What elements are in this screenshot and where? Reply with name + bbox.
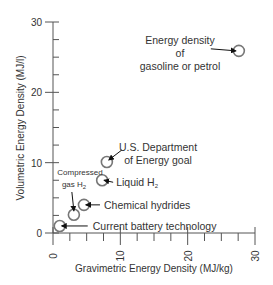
annotation-arrow [104, 180, 113, 182]
label-gasoline-2: of [176, 47, 185, 59]
label-doe-1: U.S. Department [119, 141, 197, 153]
label-compressed-gas: gas H2 [62, 180, 87, 190]
label-liquid-h2: Liquid H2 [116, 176, 159, 189]
label-chemical-hydrides: Chemical hydrides [104, 199, 190, 211]
y-tick-label: 10 [31, 158, 43, 169]
annotation-arrow [211, 49, 236, 51]
x-tick-label: 20 [183, 250, 194, 262]
annotation-arrow [72, 192, 74, 211]
label-doe-2: of Energy goal [124, 154, 192, 166]
x-tick-label: 30 [250, 250, 261, 262]
label-battery: Current battery technology [93, 220, 217, 232]
label-gasoline-3: gasoline or petrol [140, 60, 221, 72]
y-tick-label: 30 [31, 17, 43, 28]
y-axis-label: Volumetric Energy Density (MJ/l) [15, 55, 26, 200]
scatter-chart: 01020300102030 Current battery technolog… [0, 0, 273, 285]
annotations: Current battery technologyCompressedgas … [57, 34, 236, 232]
y-tick-label: 0 [36, 228, 42, 239]
x-tick-label: 0 [48, 253, 59, 259]
label-compressed: Compressed [57, 168, 102, 177]
label-gasoline-1: Energy density [145, 34, 215, 46]
y-tick-label: 20 [31, 87, 43, 98]
x-tick-label: 10 [115, 250, 126, 262]
x-axis-label: Gravimetric Energy Density (MJ/kg) [75, 263, 233, 274]
data-point-marker [68, 209, 79, 220]
